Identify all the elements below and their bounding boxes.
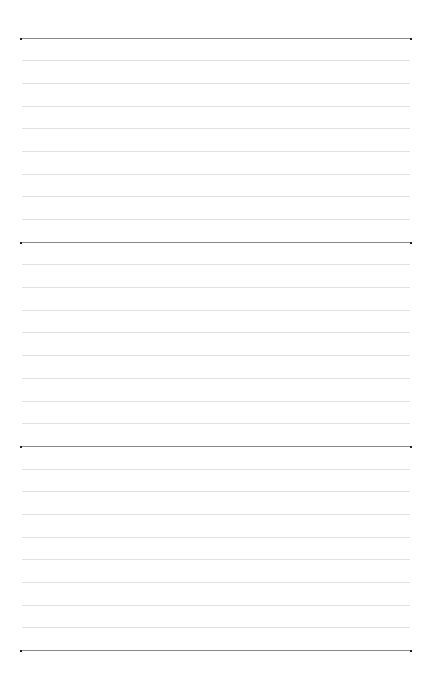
ruled-line — [22, 355, 410, 356]
rule-end-dot — [410, 38, 412, 40]
ruled-line — [22, 151, 410, 152]
rule-end-dot — [20, 446, 22, 448]
section-divider-rule — [21, 38, 411, 39]
ruled-line — [22, 106, 410, 107]
ruled-line — [22, 491, 410, 492]
ruled-line — [22, 174, 410, 175]
ruled-line — [22, 469, 410, 470]
rule-end-dot — [20, 650, 22, 652]
ruled-line — [22, 128, 410, 129]
rule-end-dot — [410, 446, 412, 448]
ruled-line — [22, 60, 410, 61]
ruled-line — [22, 332, 410, 333]
ruled-line — [22, 196, 410, 197]
ruled-line — [22, 219, 410, 220]
ruled-line — [22, 605, 410, 606]
section-divider-rule — [21, 650, 411, 651]
ruled-line — [22, 83, 410, 84]
lined-paper-page — [0, 0, 434, 682]
ruled-line — [22, 287, 410, 288]
ruled-line — [22, 559, 410, 560]
section-divider-rule — [21, 446, 411, 447]
rule-end-dot — [20, 38, 22, 40]
ruled-line — [22, 627, 410, 628]
ruled-line — [22, 537, 410, 538]
rule-end-dot — [20, 242, 22, 244]
section-divider-rule — [21, 242, 411, 243]
rule-end-dot — [410, 242, 412, 244]
ruled-line — [22, 514, 410, 515]
ruled-line — [22, 401, 410, 402]
ruled-line — [22, 378, 410, 379]
ruled-line — [22, 310, 410, 311]
ruled-line — [22, 423, 410, 424]
ruled-line — [22, 264, 410, 265]
ruled-line — [22, 582, 410, 583]
rule-end-dot — [410, 650, 412, 652]
